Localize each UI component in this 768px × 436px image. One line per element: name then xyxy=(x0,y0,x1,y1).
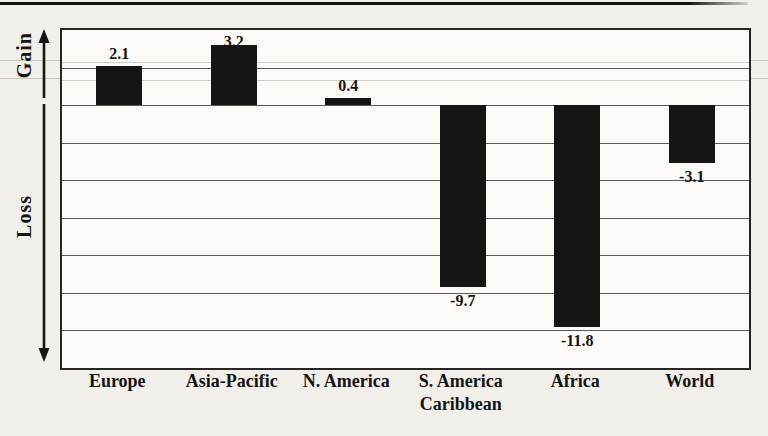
gain-arrow xyxy=(39,29,50,98)
category-label-n-america: N. America xyxy=(276,370,416,393)
value-label-n-america: 0.4 xyxy=(308,77,388,95)
gridline--12 xyxy=(62,330,749,331)
gridline--2 xyxy=(62,143,749,144)
value-label-africa: -11.8 xyxy=(537,332,617,350)
value-label-europe: 2.1 xyxy=(79,45,159,63)
gridline-0 xyxy=(62,105,749,106)
value-label-s-america: -9.7 xyxy=(423,292,503,310)
value-label-asia-pacific: 3.2 xyxy=(194,33,274,51)
category-label-asia-pacific: Asia-Pacific xyxy=(162,370,302,393)
bar-n-america xyxy=(325,98,371,106)
gridline--8 xyxy=(62,255,749,256)
value-label-world: -3.1 xyxy=(652,168,732,186)
bar-world xyxy=(669,105,715,163)
plot-area: 2.13.20.4-9.7-11.8-3.1 xyxy=(60,28,751,370)
category-label-africa: Africa xyxy=(505,370,645,393)
gridline--10 xyxy=(62,293,749,294)
loss-arrow xyxy=(39,104,50,362)
bar-s-america xyxy=(440,105,486,287)
gridline--6 xyxy=(62,218,749,219)
category-label-s-america: S. America Caribbean xyxy=(391,370,531,416)
gridline--4 xyxy=(62,180,749,181)
scan-artifact-line xyxy=(62,80,749,81)
bar-europe xyxy=(96,66,142,105)
bar-asia-pacific xyxy=(211,45,257,105)
gain-axis-label: Gain xyxy=(13,32,36,78)
loss-axis-label: Loss xyxy=(13,195,36,238)
bar-africa xyxy=(554,105,600,327)
scan-artifact-line xyxy=(62,62,749,63)
gain-loss-axis-arrows xyxy=(33,26,55,366)
category-label-europe: Europe xyxy=(47,370,187,393)
page-top-rule xyxy=(0,2,748,5)
gridline-2 xyxy=(62,68,749,69)
figure-canvas: Gain Loss 2.13.20.4-9.7-11.8-3.1 EuropeA… xyxy=(0,0,768,436)
category-label-world: World xyxy=(620,370,760,393)
